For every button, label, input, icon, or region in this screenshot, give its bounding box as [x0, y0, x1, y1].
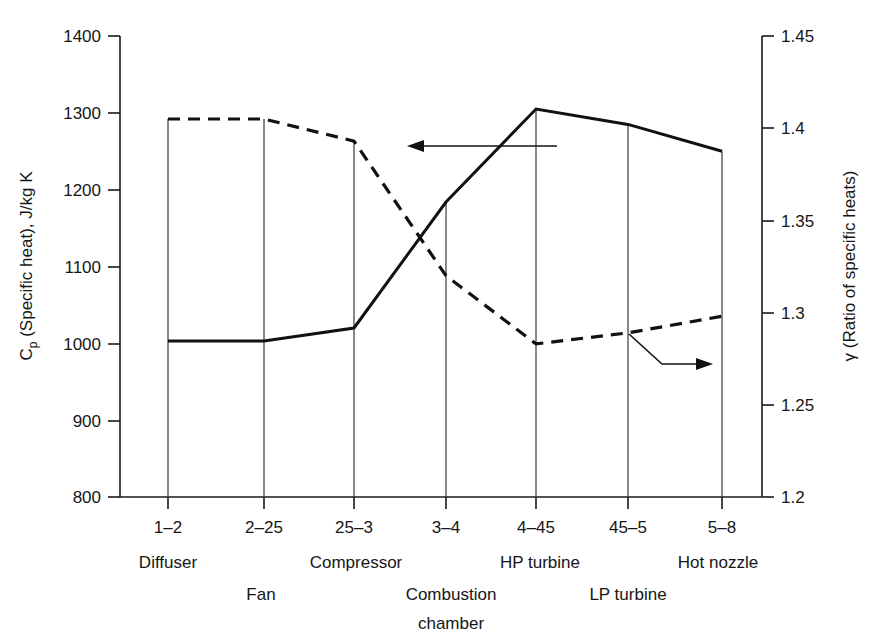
right-tick-label-1-3: 1.3	[781, 304, 805, 323]
station-label-2-25: 2–25	[245, 518, 283, 537]
left-tick-label-800: 800	[73, 488, 101, 507]
station-label-4-45: 4–45	[517, 518, 555, 537]
right-tick-label-1-25: 1.25	[781, 396, 814, 415]
left-tick-label-1200: 1200	[63, 181, 101, 200]
right-tick-label-1-2: 1.2	[781, 488, 805, 507]
right-axis-title: γ (Ratio of specific heats)	[840, 171, 859, 362]
left-axis-title-rest: (Specific heat), J/kg K	[17, 171, 36, 342]
left-tick-label-900: 900	[73, 412, 101, 431]
left-axis-title-symbol: C	[17, 348, 36, 360]
chart-background	[0, 0, 871, 639]
component-label-chamber: chamber	[418, 614, 484, 633]
station-label-5-8: 5–8	[708, 518, 736, 537]
left-tick-label-1100: 1100	[64, 258, 101, 277]
component-label-lp-turbine: LP turbine	[589, 585, 666, 604]
chart-figure: 1400 1300 1200 1100 1000 900 800 Cp (Spe…	[0, 0, 871, 639]
right-tick-label-1-45: 1.45	[781, 27, 814, 46]
station-label-3-4: 3–4	[432, 518, 460, 537]
right-tick-label-1-35: 1.35	[781, 212, 814, 231]
station-label-1-2: 1–2	[154, 518, 182, 537]
component-label-diffuser: Diffuser	[139, 553, 198, 572]
station-label-45-5: 45–5	[609, 518, 647, 537]
chart-svg: 1400 1300 1200 1100 1000 900 800 Cp (Spe…	[0, 0, 871, 639]
component-label-compressor: Compressor	[310, 553, 403, 572]
component-label-fan: Fan	[246, 585, 275, 604]
right-axis-title-rest: (Ratio of specific heats)	[840, 171, 859, 353]
component-label-combustion: Combustion	[406, 585, 497, 604]
svg-text:γ (Ratio of specific heats): γ (Ratio of specific heats)	[840, 171, 859, 362]
left-tick-label-1400: 1400	[63, 27, 101, 46]
left-tick-label-1000: 1000	[63, 335, 101, 354]
left-tick-label-1300: 1300	[63, 104, 101, 123]
right-tick-label-1-4: 1.4	[781, 119, 805, 138]
station-label-25-3: 25–3	[335, 518, 373, 537]
component-label-hot-nozzle: Hot nozzle	[678, 553, 758, 572]
component-label-hp-turbine: HP turbine	[500, 553, 580, 572]
